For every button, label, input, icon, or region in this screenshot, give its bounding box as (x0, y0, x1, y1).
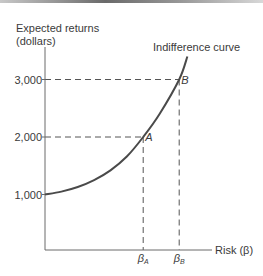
y-tick-label: 2,000 (14, 131, 42, 143)
y-axis-label-line2: (dollars) (16, 35, 56, 47)
y-ticks: 1,0002,0003,000 (14, 74, 45, 201)
y-axis-label-line1: Expected returns (16, 22, 100, 34)
y-tick-label: 1,000 (14, 189, 42, 201)
guide-lines (45, 80, 179, 251)
curve-label: Indifference curve (153, 41, 240, 53)
indifference-curve-chart: 1,0002,0003,000 AB βAβB Expected returns… (0, 0, 263, 276)
y-tick-label: 3,000 (14, 74, 42, 86)
x-tick-label-beta-a: βA (137, 252, 149, 265)
x-ticks: βAβB (137, 252, 185, 265)
point-label-b: B (181, 74, 188, 86)
point-labels: AB (144, 74, 188, 144)
x-tick-label-beta-b: βB (173, 252, 185, 265)
indifference-curve (45, 57, 187, 195)
point-label-a: A (144, 131, 152, 143)
x-axis-label: Risk (β) (215, 244, 253, 256)
